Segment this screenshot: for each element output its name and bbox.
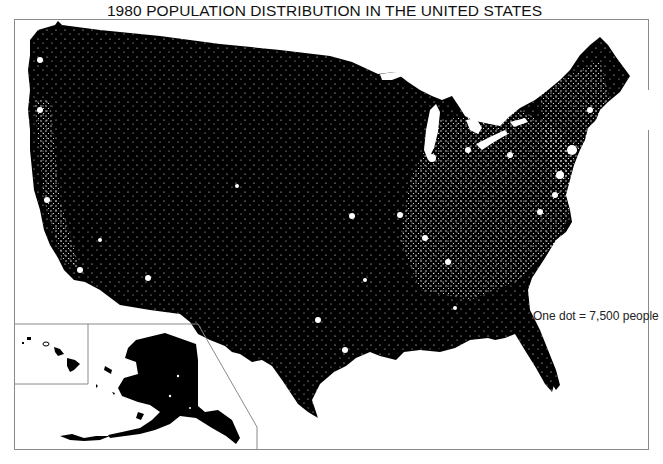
hawaii-inset — [22, 337, 80, 372]
map-legend: One dot = 7,500 people — [533, 309, 659, 323]
contiguous-us — [28, 21, 649, 418]
population-dot-map — [0, 0, 663, 464]
